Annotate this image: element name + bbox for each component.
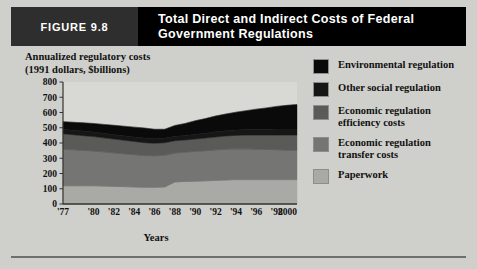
svg-text:'77: '77 [57, 207, 69, 217]
figure-bottom-rule [11, 256, 466, 258]
svg-text:600: 600 [43, 108, 58, 118]
svg-text:500: 500 [43, 123, 58, 133]
svg-text:800: 800 [43, 77, 58, 87]
figure-container: FIGURE 9.8 Total Direct and Indirect Cos… [0, 0, 477, 269]
legend-swatch-economic-regulation-efficiency-costs [313, 105, 329, 120]
figure-title: Total Direct and Indirect Costs of Feder… [138, 7, 466, 42]
svg-text:'96: '96 [250, 207, 262, 217]
legend-item: Environmental regulation [313, 58, 473, 74]
legend-item: Paperwork [313, 168, 473, 184]
svg-text:'84: '84 [128, 207, 140, 217]
legend-swatch-other-social-regulation [313, 82, 329, 97]
legend-swatch-economic-regulation-transfer-costs [313, 137, 329, 152]
legend-label: Other social regulation [338, 81, 441, 94]
svg-text:400: 400 [43, 138, 58, 148]
legend-item: Other social regulation [313, 81, 473, 97]
stacked-area-chart: 0100200300400500600700800'77'80'82'84'86… [11, 76, 301, 226]
legend-item: Economic regulation efficiency costs [313, 104, 473, 129]
chart-legend: Environmental regulation Other social re… [313, 58, 473, 191]
svg-text:700: 700 [43, 93, 58, 103]
y-axis-title: Annualized regulatory costs (1991 dollar… [25, 51, 150, 76]
svg-text:'94: '94 [230, 207, 242, 217]
svg-text:'82: '82 [108, 207, 120, 217]
legend-item: Economic regulation transfer costs [313, 136, 473, 161]
legend-swatch-paperwork [313, 169, 329, 184]
svg-text:300: 300 [43, 154, 58, 164]
svg-text:'88: '88 [169, 207, 181, 217]
svg-text:'92: '92 [210, 207, 222, 217]
svg-text:'80: '80 [87, 207, 99, 217]
legend-label: Economic regulation efficiency costs [338, 104, 431, 129]
x-axis-title: Years [11, 232, 301, 243]
chart-area: Annualized regulatory costs (1991 dollar… [11, 46, 466, 252]
figure-number-label: FIGURE 9.8 [41, 21, 109, 33]
svg-text:'90: '90 [189, 207, 201, 217]
svg-text:200: 200 [43, 169, 58, 179]
figure-header-bar: FIGURE 9.8 Total Direct and Indirect Cos… [11, 7, 466, 46]
plot-wrapper: 0100200300400500600700800'77'80'82'84'86… [11, 76, 301, 226]
legend-label: Environmental regulation [338, 58, 454, 71]
legend-label: Paperwork [338, 168, 388, 181]
legend-label: Economic regulation transfer costs [338, 136, 431, 161]
svg-text:2000: 2000 [278, 207, 297, 217]
figure-number-box: FIGURE 9.8 [11, 7, 138, 46]
svg-text:100: 100 [43, 184, 58, 194]
legend-swatch-environmental-regulation [313, 59, 329, 74]
svg-text:'86: '86 [148, 207, 160, 217]
